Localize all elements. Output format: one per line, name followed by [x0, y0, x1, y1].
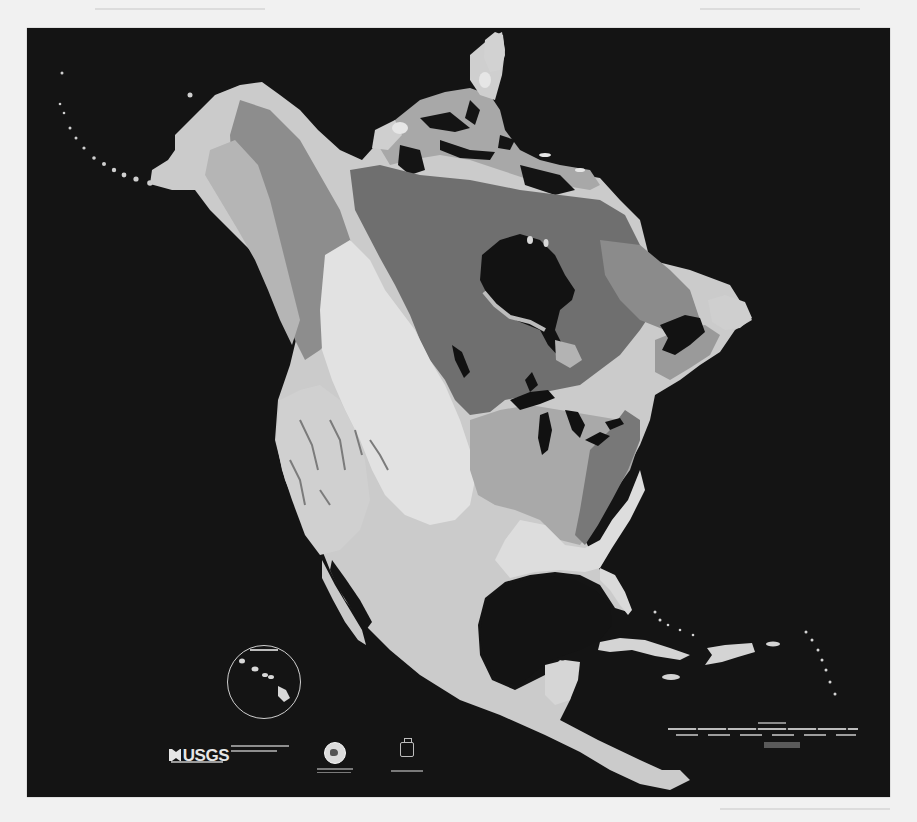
- jamaica: [662, 674, 680, 680]
- department-text: [231, 745, 291, 755]
- caribbean-islands: [598, 611, 837, 696]
- usgs-tagline: [171, 761, 223, 763]
- usgs-logo: USGS: [169, 742, 229, 768]
- puerto-rico: [766, 642, 780, 647]
- scale-bar-label: [764, 742, 800, 748]
- map-canvas: [27, 28, 890, 797]
- partner-seal-icon: [324, 742, 346, 764]
- scale-bar: [668, 722, 868, 758]
- usgs-logo-icon: [169, 749, 181, 761]
- institution-caption: [391, 770, 423, 772]
- hawaii-inset: [227, 645, 301, 719]
- yucatan-peninsula: [545, 660, 580, 705]
- map-panel: USGS: [27, 28, 890, 797]
- hawaii-islands: [228, 646, 300, 718]
- scale-bar-segments: [676, 734, 856, 736]
- page-header-text: [700, 8, 860, 10]
- hispaniola: [705, 643, 755, 665]
- cuba: [598, 638, 690, 660]
- institution-logo-icon: [400, 742, 414, 757]
- page-header-text: [95, 8, 265, 10]
- partner-seal-caption: [317, 768, 353, 775]
- scale-bar-title: [758, 722, 786, 724]
- scale-bar-ticks: [668, 728, 858, 730]
- page-footer-text: [720, 808, 890, 810]
